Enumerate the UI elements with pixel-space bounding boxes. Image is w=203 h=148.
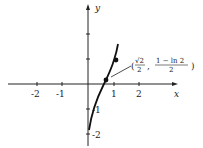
x-tick-label: 2 [136, 89, 142, 99]
svg-text:,: , [147, 61, 150, 71]
svg-text:√2: √2 [135, 57, 144, 65]
svg-text:1 − ln 2: 1 − ln 2 [156, 57, 184, 65]
svg-text:(: ( [131, 61, 135, 71]
x-tick-label: 1 [111, 89, 117, 99]
x-tick-label: -2 [31, 89, 40, 99]
y-tick-label: -2 [92, 130, 101, 140]
svg-text:2: 2 [137, 66, 141, 74]
svg-text:2: 2 [169, 66, 173, 74]
y-axis-arrow-icon [86, 4, 90, 10]
plot: -2 -1 1 2 -1 -2 x y ( √2 2 , 1 − ln 2 2 … [0, 0, 203, 148]
annotation-leader [111, 66, 131, 77]
point-marker [114, 58, 119, 63]
x-tick-label: -1 [56, 89, 65, 99]
svg-text:): ) [191, 61, 195, 71]
y-axis-label: y [94, 3, 101, 13]
curve [89, 44, 118, 130]
x-axis-label: x [174, 89, 179, 99]
x-axis-arrow-icon [172, 82, 178, 86]
point-annotation: ( √2 2 , 1 − ln 2 2 ) [131, 57, 195, 74]
point-marker [104, 78, 109, 83]
